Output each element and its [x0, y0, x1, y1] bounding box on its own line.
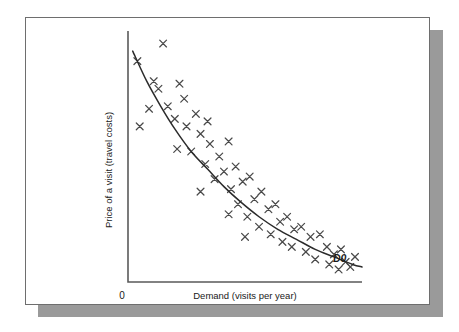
x-axis-label: Demand (visits per year) — [193, 290, 296, 301]
figure-root: Demand (visits per year) Price of a visi… — [0, 0, 459, 332]
scatter-marker — [174, 146, 181, 153]
scatter-marker — [171, 115, 178, 122]
scatter-marker — [204, 118, 211, 125]
scatter-marker — [221, 168, 228, 175]
scatter-marker — [150, 78, 157, 85]
scatter-marker — [160, 40, 167, 47]
scatter-marker — [302, 248, 309, 255]
scatter-marker — [279, 238, 286, 245]
scatter-marker — [272, 201, 279, 208]
scatter-marker — [197, 131, 204, 138]
scatter-marker — [225, 138, 232, 145]
scatter-marker — [207, 141, 214, 148]
scatter-marker — [324, 243, 331, 250]
scatter-marker — [307, 233, 314, 240]
scatter-marker — [256, 223, 263, 230]
scatter-marker — [326, 261, 333, 268]
demand-chart: Demand (visits per year) Price of a visi… — [0, 0, 459, 332]
scatter-marker — [288, 243, 295, 250]
scatter-marker — [291, 226, 298, 233]
scatter-marker — [183, 123, 190, 130]
y-axis-label: Price of a visit (travel costs) — [103, 112, 114, 228]
scatter-marker — [277, 218, 284, 225]
scatter-marker — [316, 231, 323, 238]
scatter-marker — [225, 211, 232, 218]
scatter-marker — [181, 95, 188, 102]
scatter-marker — [335, 266, 342, 273]
scatter-marker — [298, 223, 305, 230]
scatter-marker — [265, 206, 272, 213]
scatter-marker — [258, 188, 265, 195]
scatter-points — [134, 40, 358, 273]
scatter-marker — [244, 213, 251, 220]
scatter-marker — [246, 173, 253, 180]
scatter-marker — [267, 231, 274, 238]
scatter-marker — [232, 163, 239, 170]
scatter-marker — [155, 85, 162, 92]
scatter-marker — [164, 103, 171, 110]
scatter-marker — [312, 256, 319, 263]
scatter-marker — [176, 80, 183, 87]
demand-curve-label: D0 — [333, 252, 347, 264]
scatter-marker — [239, 178, 246, 185]
origin-label: 0 — [119, 290, 125, 301]
scatter-marker — [242, 233, 249, 240]
scatter-marker — [251, 196, 258, 203]
chart-axes — [128, 31, 362, 282]
scatter-marker — [352, 254, 359, 261]
scatter-marker — [284, 213, 291, 220]
scatter-marker — [216, 153, 223, 160]
scatter-marker — [197, 188, 204, 195]
scatter-marker — [146, 105, 153, 112]
scatter-marker — [192, 110, 199, 117]
scatter-marker — [136, 123, 143, 130]
